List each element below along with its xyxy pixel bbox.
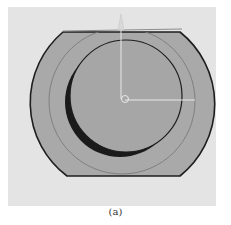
figure-caption: (a): [0, 206, 231, 217]
cad-render: [0, 0, 231, 225]
